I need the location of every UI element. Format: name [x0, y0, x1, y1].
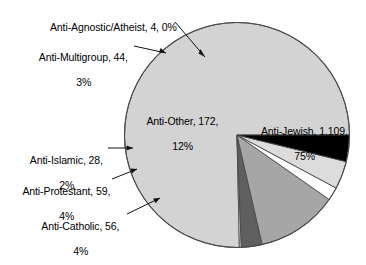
pie-chart-figure: Anti-Agnostic/Atheist, 4, 0% Anti-Multig…	[0, 0, 366, 265]
label-anti-other-line1: Anti-Other, 172,	[146, 115, 218, 127]
label-anti-islamic-line1: Anti-Islamic, 28,	[30, 154, 103, 166]
label-anti-catholic-line1: Anti-Catholic, 56,	[41, 220, 119, 232]
label-anti-multigroup: Anti-Multigroup, 44, 3%	[22, 38, 134, 101]
label-anti-catholic: Anti-Catholic, 56, 4%	[22, 207, 128, 265]
label-anti-jewish-line2: 75%	[294, 150, 315, 162]
label-anti-jewish-line1: Anti-Jewish, 1,109,	[261, 125, 348, 137]
label-anti-multigroup-line2: 3%	[76, 76, 91, 88]
label-anti-agnostic-text: Anti-Agnostic/Atheist, 4, 0%	[50, 21, 177, 33]
label-anti-protestant-line1: Anti-Protestant, 59,	[22, 185, 110, 197]
label-anti-catholic-line2: 4%	[73, 245, 88, 257]
label-anti-multigroup-line1: Anti-Multigroup, 44,	[39, 51, 128, 63]
label-anti-other-line2: 12%	[172, 140, 193, 152]
label-anti-jewish: Anti-Jewish, 1,109, 75%	[243, 112, 355, 175]
label-anti-other: Anti-Other, 172, 12%	[125, 102, 229, 165]
